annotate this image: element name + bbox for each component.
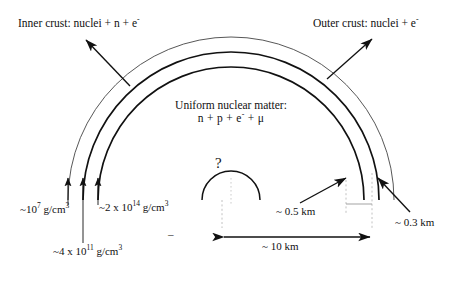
inner-crust-label-text: Inner crust: nuclei + n + e bbox=[18, 17, 137, 29]
outer-crust-callout-arrow bbox=[327, 39, 372, 79]
inner-crust-electron-superscript: - bbox=[137, 15, 140, 24]
density-outer-unit-exponent: 3 bbox=[65, 201, 69, 210]
density-drip-unit: g/cm bbox=[94, 245, 119, 257]
thickness-arrow-outer-crust bbox=[378, 178, 410, 212]
density-outer-prefix: ~10 bbox=[20, 203, 37, 215]
core-composition-line2-text: n + p + e bbox=[198, 112, 242, 124]
outer-crust-thickness-label: ~ 0.3 km bbox=[395, 216, 434, 229]
outer-crust-label: Outer crust: nuclei + e- bbox=[313, 17, 419, 30]
diagram-canvas: Inner crust: nuclei + n + e- Outer crust… bbox=[0, 0, 462, 306]
star-radius-label: ~ 10 km bbox=[262, 240, 299, 253]
density-inner-unit: g/cm bbox=[140, 201, 165, 213]
arc-inner-crust-boundary bbox=[98, 67, 364, 200]
inner-crust-label: Inner crust: nuclei + n + e- bbox=[18, 17, 140, 30]
outer-crust-label-text: Outer crust: nuclei + e bbox=[313, 17, 416, 29]
inner-crust-thickness-label: ~ 0.5 km bbox=[276, 205, 315, 218]
core-composition-line2-tail: + μ bbox=[245, 112, 265, 124]
stray-dash-mark: – bbox=[168, 228, 174, 240]
neutron-star-cross-section-svg bbox=[0, 0, 462, 306]
density-label-neutron-drip: ~4 x 1011 g/cm3 bbox=[53, 245, 122, 258]
density-label-outer: ~107 g/cm3 bbox=[20, 203, 69, 216]
thickness-arrow-inner-crust bbox=[300, 178, 346, 203]
density-drip-exponent: 11 bbox=[86, 243, 93, 252]
density-drip-prefix: ~4 x 10 bbox=[53, 245, 86, 257]
core-composition-line1: Uniform nuclear matter: bbox=[175, 99, 287, 111]
density-inner-prefix: ~2 x 10 bbox=[99, 201, 132, 213]
outer-crust-electron-superscript: - bbox=[416, 15, 419, 24]
density-inner-exponent: 14 bbox=[132, 199, 139, 208]
density-drip-unit-exponent: 3 bbox=[118, 243, 122, 252]
density-inner-unit-exponent: 3 bbox=[165, 199, 169, 208]
core-composition-line2: n + p + e- + μ bbox=[168, 112, 294, 125]
inner-crust-callout-arrow bbox=[86, 40, 130, 86]
core-composition-label: Uniform nuclear matter: n + p + e- + μ bbox=[168, 99, 294, 125]
arc-inner-core bbox=[202, 171, 260, 200]
unknown-core-question-mark: ? bbox=[215, 155, 222, 172]
density-outer-unit: g/cm bbox=[41, 203, 66, 215]
density-label-inner: ~2 x 1014 g/cm3 bbox=[99, 201, 168, 214]
